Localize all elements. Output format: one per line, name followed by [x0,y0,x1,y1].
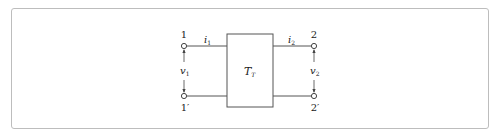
label-voltage-v1: v1 [180,65,189,77]
terminal-1-prime [181,93,186,98]
label-terminal-2: 2 [311,29,317,40]
label-terminal-2-prime: 2′ [311,102,320,113]
label-terminal-1: 1 [181,29,187,40]
terminal-2-prime [311,93,316,98]
terminal-1 [181,43,186,48]
label-current-i2: i2 [288,34,295,46]
label-block-TT: TT [244,65,256,78]
label-current-i1: i1 [204,34,211,46]
terminal-2 [311,43,316,48]
label-terminal-1-prime: 1′ [181,102,190,113]
label-voltage-v2: v2 [310,65,320,77]
two-port-diagram: 1 1′ 2 2′ i1 i2 v1 v2 TT [0,0,500,134]
